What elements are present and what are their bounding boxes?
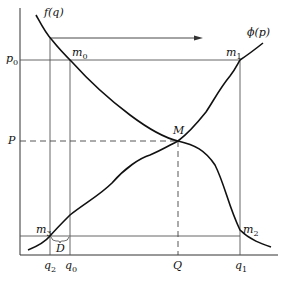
point-m2-label: m2 <box>243 224 259 238</box>
demand-curve-label: f(q) <box>44 7 64 18</box>
x-label-q1: q1 <box>235 260 247 274</box>
diagram-canvas <box>0 0 288 281</box>
x-label-Q: Q <box>173 260 182 271</box>
arrow-head-icon <box>194 36 203 41</box>
y-label-P: P <box>8 135 15 146</box>
supply-curve <box>28 43 263 250</box>
y-label-p0: p0 <box>6 53 18 67</box>
cobweb-diagram: f(q) ϕ(p) m0 m1 m2 m3 M D p0 P q2 q0 Q q… <box>0 0 288 281</box>
point-M-label: M <box>173 125 184 136</box>
point-m1-label: m1 <box>226 47 242 61</box>
point-m0-label: m0 <box>72 47 88 61</box>
x-label-q0: q0 <box>65 260 77 274</box>
region-D-label: D <box>56 243 65 254</box>
supply-curve-label: ϕ(p) <box>247 27 270 38</box>
point-m3-label: m3 <box>36 224 52 238</box>
x-label-q2: q2 <box>44 260 56 274</box>
